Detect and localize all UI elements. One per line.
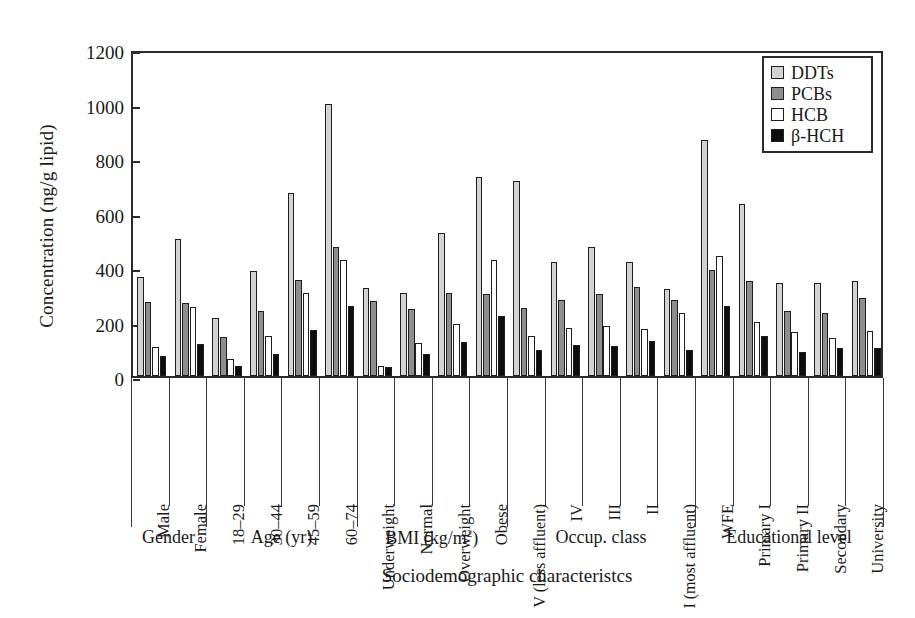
bar bbox=[596, 294, 603, 376]
bar bbox=[761, 336, 768, 376]
bar-group bbox=[208, 53, 246, 376]
bar bbox=[784, 311, 791, 376]
bar bbox=[288, 193, 295, 376]
bar-group bbox=[471, 53, 509, 376]
y-axis-tick-label: 600 bbox=[96, 206, 134, 228]
bar bbox=[491, 260, 498, 376]
bar bbox=[686, 350, 693, 376]
bar bbox=[513, 181, 520, 376]
bar bbox=[152, 347, 159, 376]
category-separator bbox=[432, 378, 433, 506]
x-axis-title: Sociodemographic characteristcs bbox=[131, 565, 883, 587]
bar bbox=[739, 204, 746, 376]
supergroup-tick bbox=[206, 505, 207, 527]
category-separator bbox=[131, 378, 132, 506]
supergroup-label: Gender bbox=[142, 527, 195, 548]
category-separator bbox=[883, 378, 884, 506]
supergroup-label: Occup. class bbox=[556, 527, 647, 548]
legend-label: β-HCH bbox=[791, 127, 844, 145]
y-axis-tick-label: 200 bbox=[96, 315, 134, 337]
bar-group bbox=[509, 53, 547, 376]
bar bbox=[160, 356, 167, 376]
y-axis-tick: 200 bbox=[96, 315, 134, 337]
supergroup-tick bbox=[357, 505, 358, 527]
bar bbox=[671, 300, 678, 376]
bar bbox=[340, 260, 347, 376]
bar bbox=[626, 262, 633, 376]
bar-group bbox=[246, 53, 284, 376]
bar bbox=[837, 348, 844, 376]
bar bbox=[197, 344, 204, 376]
bar bbox=[483, 294, 490, 376]
supergroup-tick bbox=[507, 505, 508, 527]
bar-group bbox=[434, 53, 472, 376]
supergroup-tick bbox=[883, 505, 884, 527]
legend-swatch-hcb bbox=[771, 108, 784, 121]
bar bbox=[566, 328, 573, 377]
bar bbox=[303, 293, 310, 376]
category-separator bbox=[845, 378, 846, 506]
bar bbox=[265, 336, 272, 376]
bar bbox=[649, 341, 656, 376]
bar-chart-figure: Concentration (ng/g lipid) 0200400600800… bbox=[0, 0, 915, 618]
bar bbox=[551, 262, 558, 376]
bar bbox=[408, 309, 415, 376]
bar bbox=[874, 348, 881, 376]
bar bbox=[776, 283, 783, 376]
bar bbox=[235, 366, 242, 376]
category-separator bbox=[695, 378, 696, 506]
bar bbox=[250, 271, 257, 376]
bar-group bbox=[659, 53, 697, 376]
legend-item: β-HCH bbox=[771, 125, 865, 146]
bar-group bbox=[584, 53, 622, 376]
bar bbox=[190, 307, 197, 376]
bar bbox=[453, 324, 460, 376]
category-separator bbox=[319, 378, 320, 506]
bar bbox=[641, 329, 648, 376]
bar bbox=[370, 301, 377, 376]
category-separator bbox=[808, 378, 809, 506]
bar bbox=[754, 322, 761, 376]
category-separator bbox=[545, 378, 546, 506]
y-axis-tick-label: 800 bbox=[96, 151, 134, 173]
y-axis-tick-label: 400 bbox=[96, 260, 134, 282]
bar bbox=[438, 233, 445, 376]
bar-group bbox=[321, 53, 359, 376]
category-separator bbox=[507, 378, 508, 506]
bar bbox=[852, 281, 859, 376]
bar-group bbox=[171, 53, 209, 376]
x-axis-category-labels: MaleFemale18–2930–4445–5960–74Underweigh… bbox=[131, 378, 883, 513]
bar bbox=[814, 283, 821, 376]
bar bbox=[724, 306, 731, 376]
bar bbox=[182, 303, 189, 376]
x-axis-supergroup-labels: GenderAge (yr)BMI (kg/m2)Occup. classEdu… bbox=[131, 505, 883, 555]
bar bbox=[716, 256, 723, 376]
bar bbox=[385, 367, 392, 376]
bar bbox=[573, 345, 580, 376]
bar-group bbox=[396, 53, 434, 376]
bar bbox=[446, 293, 453, 376]
bar bbox=[859, 298, 866, 376]
bar bbox=[603, 326, 610, 376]
bar bbox=[212, 318, 219, 376]
bar bbox=[528, 336, 535, 376]
bar-group bbox=[359, 53, 397, 376]
bar bbox=[829, 338, 836, 376]
bar bbox=[867, 331, 874, 376]
bar bbox=[611, 346, 618, 376]
bar bbox=[558, 300, 565, 376]
y-axis-tick: 800 bbox=[96, 151, 134, 173]
bar bbox=[799, 352, 806, 376]
y-axis-tick: 400 bbox=[96, 260, 134, 282]
bar bbox=[521, 308, 528, 376]
bar bbox=[325, 104, 332, 377]
legend-label: HCB bbox=[791, 106, 828, 124]
legend-item: DDTs bbox=[771, 62, 865, 83]
y-axis-title: Concentration (ng/g lipid) bbox=[36, 61, 58, 391]
category-separator bbox=[582, 378, 583, 506]
bar-group bbox=[622, 53, 660, 376]
bar bbox=[588, 247, 595, 376]
bar bbox=[258, 311, 265, 376]
y-axis-tick: 600 bbox=[96, 206, 134, 228]
category-separator bbox=[770, 378, 771, 506]
